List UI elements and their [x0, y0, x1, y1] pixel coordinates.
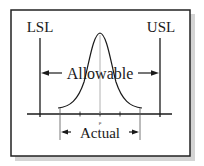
allowable-label: Allowable [67, 65, 134, 82]
usl-label: USL [147, 19, 175, 35]
diagram-canvas: LSL USL Allowable Actual μ [0, 0, 204, 166]
lsl-label: LSL [27, 19, 54, 35]
mean-label: μ [99, 120, 102, 125]
capability-diagram: LSL USL Allowable Actual μ [0, 0, 204, 166]
actual-label: Actual [80, 125, 120, 141]
